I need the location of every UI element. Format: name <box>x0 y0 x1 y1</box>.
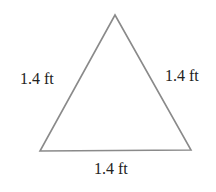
triangle-diagram: 1.4 ft 1.4 ft 1.4 ft <box>0 0 216 192</box>
left-side-label: 1.4 ft <box>20 70 54 87</box>
bottom-side-label: 1.4 ft <box>94 160 128 177</box>
right-side-label: 1.4 ft <box>165 67 199 84</box>
